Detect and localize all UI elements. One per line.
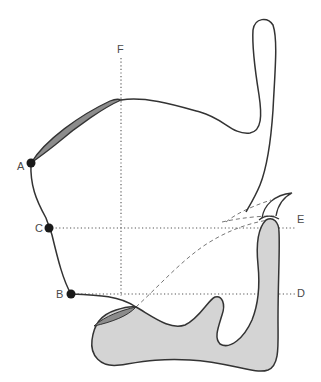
hook-shape	[262, 193, 292, 218]
landmark-c-dot	[45, 224, 54, 233]
label-b: B	[56, 289, 63, 300]
lower-jaw-shape	[92, 219, 280, 371]
profile-outline	[31, 20, 276, 307]
upper-lip-dark-region	[31, 99, 121, 163]
label-e: E	[297, 214, 304, 225]
label-c: C	[35, 223, 43, 234]
anatomical-diagram	[0, 0, 321, 382]
landmark-a-dot	[27, 159, 36, 168]
landmark-b-dot	[67, 290, 76, 299]
label-a: A	[17, 161, 24, 172]
label-f: F	[117, 44, 124, 55]
dashed-contour-lower	[136, 220, 268, 307]
label-d: D	[297, 288, 305, 299]
